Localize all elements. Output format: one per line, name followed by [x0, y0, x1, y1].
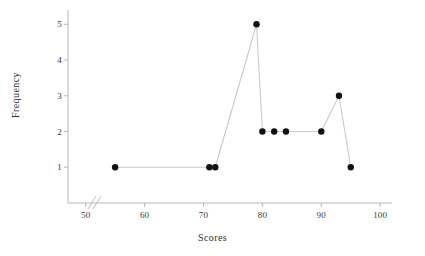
data-point [348, 164, 354, 170]
x-axis-title: Scores [0, 232, 425, 243]
frequency-vs-scores-chart: 5060708090100 12345 Scores Frequency [0, 0, 425, 256]
data-line [115, 24, 351, 167]
data-point [206, 164, 212, 170]
x-tick-label: 60 [140, 210, 149, 220]
data-point [112, 164, 118, 170]
axes-group [68, 10, 392, 203]
y-axis-title: Frequency [10, 0, 21, 50]
data-point [271, 128, 277, 134]
data-point [318, 128, 324, 134]
x-tick-label: 80 [258, 210, 267, 220]
x-tick-label: 70 [199, 210, 208, 220]
data-point [283, 128, 289, 134]
x-ticks [86, 203, 381, 207]
data-point [336, 93, 342, 99]
y-tick-label: 1 [48, 162, 62, 172]
x-tick-label: 90 [317, 210, 326, 220]
data-points [112, 21, 354, 170]
plot-area [0, 0, 425, 256]
x-tick-label: 100 [373, 210, 387, 220]
y-axis-title-label: Frequency [10, 50, 21, 140]
y-tick-label: 3 [48, 91, 62, 101]
x-tick-label: 50 [81, 210, 90, 220]
y-tick-label: 5 [48, 19, 62, 29]
y-tick-label: 2 [48, 127, 62, 137]
data-point [212, 164, 218, 170]
y-tick-label: 4 [48, 55, 62, 65]
y-ticks [64, 24, 68, 167]
data-point [253, 21, 259, 27]
data-point [259, 128, 265, 134]
